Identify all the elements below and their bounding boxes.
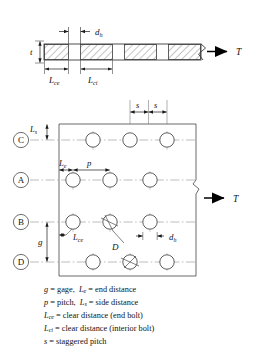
label-clear-interior-elevation: Lci: [87, 75, 98, 86]
bolt-hole: [160, 133, 174, 147]
bolt-hole: [143, 215, 157, 229]
bolt-hole: [66, 215, 80, 229]
label-tension-elevation: T: [236, 47, 242, 57]
legend: g = gage, Le = end distance p = pitch, L…: [44, 284, 244, 347]
legend-line-4: s = staggered pitch: [44, 336, 244, 347]
bolt-hole: [123, 133, 137, 147]
dim-hole-diameter-elevation: dh: [59, 27, 103, 44]
legend-line-1: p = pitch, Ls = side distance: [44, 297, 244, 310]
label-pitch: p: [86, 158, 92, 168]
label-hole-diameter-elevation: dh: [95, 27, 103, 38]
dim-gage: g: [38, 223, 47, 262]
bolt-hole: [86, 255, 100, 269]
bolt-hole: [103, 173, 117, 187]
bolt-hole: [143, 173, 157, 187]
label-thickness: t: [30, 47, 33, 57]
bolt-hole: [86, 133, 100, 147]
plan-view: s s C A B D: [13, 100, 239, 276]
row-label-a: A: [18, 175, 25, 185]
row-label-d: D: [18, 257, 25, 267]
legend-line-3: Lci = clear distance (interior bolt): [44, 323, 244, 336]
legend-line-2: Lce = clear distance (end bolt): [44, 310, 244, 323]
bolt-hole: [66, 173, 80, 187]
elevation-view: dh T t: [30, 27, 242, 86]
row-label-bubbles: C A B D: [13, 132, 28, 269]
elevation-break-and-load: T: [199, 44, 243, 60]
label-clear-end-elevation: Lce: [48, 75, 60, 86]
label-gage: g: [38, 237, 43, 247]
label-bolt-diameter: D: [111, 242, 119, 252]
row-label-c: C: [18, 135, 24, 145]
bolt-hole: [160, 255, 174, 269]
plan-load-arrow: T: [204, 194, 239, 204]
label-staggered-pitch-2: s: [154, 100, 158, 110]
label-staggered-pitch-1: s: [136, 100, 140, 110]
dim-clear-distances-elevation: Lce Lci: [45, 60, 113, 86]
dim-thickness: t: [30, 41, 44, 63]
label-tension-plan: T: [233, 194, 239, 204]
dim-side-distance: Ls: [29, 124, 47, 140]
row-label-b: B: [18, 217, 24, 227]
label-side-distance: Ls: [29, 124, 38, 135]
legend-line-0: g = gage, Le = end distance: [44, 284, 244, 297]
